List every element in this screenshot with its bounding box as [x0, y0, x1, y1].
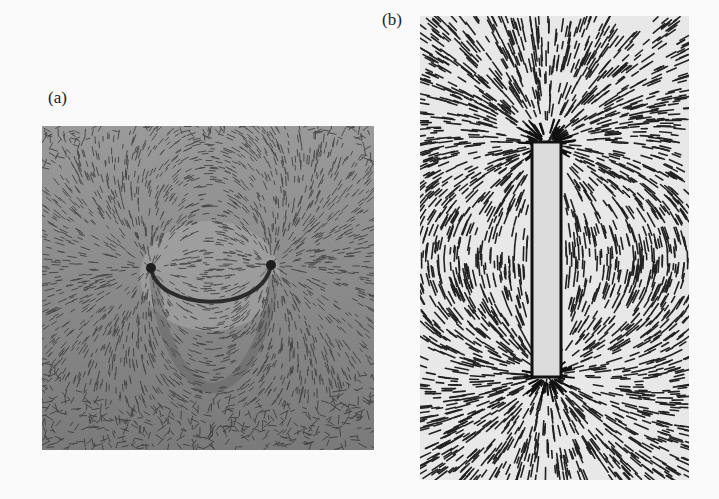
panel-b-label: (b)	[382, 10, 402, 30]
panel-a-horseshoe-magnet-image	[42, 126, 374, 450]
bar-magnet-field-pattern	[420, 16, 689, 480]
panel-b-bar-magnet-image	[420, 16, 689, 480]
horseshoe-magnet-field-pattern	[42, 126, 374, 450]
panel-a-label: (a)	[48, 88, 67, 108]
